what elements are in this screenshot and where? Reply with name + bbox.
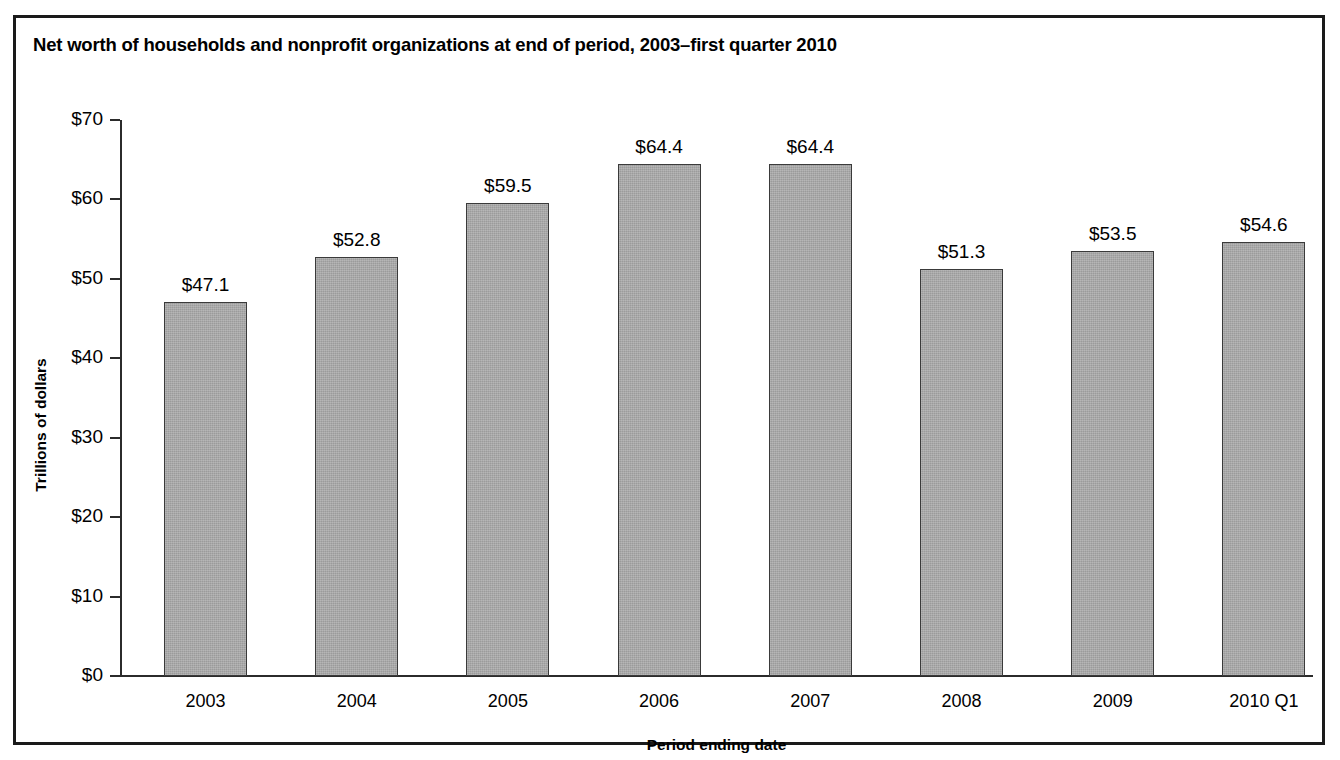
- bar: [315, 257, 398, 676]
- y-axis-tick: $0: [110, 675, 120, 677]
- y-axis-tick: $40: [110, 357, 120, 359]
- y-axis-tick: $20: [110, 516, 120, 518]
- y-axis-tick: $10: [110, 596, 120, 598]
- y-axis-tick-label: $0: [82, 664, 103, 686]
- bar: [618, 164, 701, 676]
- plot-area: $0$10$20$30$40$50$60$70 $47.12003$52.820…: [120, 120, 1313, 676]
- y-axis-tick-label: $40: [71, 346, 103, 368]
- bar-group: $51.32008: [920, 120, 1003, 676]
- bar-value-label: $64.4: [596, 136, 723, 158]
- x-axis-category-label: 2007: [739, 691, 882, 712]
- y-axis-tick-label: $20: [71, 505, 103, 527]
- chart-title: Net worth of households and nonprofit or…: [33, 34, 837, 56]
- x-axis-category-label: 2003: [134, 691, 277, 712]
- bar: [920, 269, 1003, 676]
- x-axis-category-label: 2004: [285, 691, 428, 712]
- y-axis-tick: $50: [110, 278, 120, 280]
- y-axis-line: [120, 120, 122, 676]
- bar: [1222, 242, 1305, 676]
- x-axis-category-label: 2005: [436, 691, 579, 712]
- y-axis-tick-label: $50: [71, 267, 103, 289]
- bar-value-label: $51.3: [898, 241, 1025, 263]
- x-axis-title: Period ending date: [120, 736, 1313, 754]
- bar-group: $54.62010 Q1: [1222, 120, 1305, 676]
- bar-value-label: $54.6: [1200, 214, 1327, 236]
- y-axis-tick-label: $10: [71, 585, 103, 607]
- chart-figure-frame: Net worth of households and nonprofit or…: [13, 15, 1325, 745]
- x-axis-category-label: 2008: [890, 691, 1033, 712]
- bar-value-label: $59.5: [444, 175, 571, 197]
- bar: [769, 164, 852, 676]
- bar-group: $47.12003: [164, 120, 247, 676]
- bar-group: $53.52009: [1071, 120, 1154, 676]
- y-axis-tick: $30: [110, 437, 120, 439]
- bar: [1071, 251, 1154, 676]
- bar-group: $64.42007: [769, 120, 852, 676]
- y-axis-tick-label: $60: [71, 187, 103, 209]
- y-axis-tick: $60: [110, 198, 120, 200]
- x-axis-category-label: 2009: [1041, 691, 1184, 712]
- y-axis-tick-label: $70: [71, 108, 103, 130]
- bar-group: $59.52005: [466, 120, 549, 676]
- bar-value-label: $47.1: [142, 274, 269, 296]
- bar: [466, 203, 549, 676]
- bar-value-label: $52.8: [293, 229, 420, 251]
- y-axis-tick: $70: [110, 119, 120, 121]
- x-axis-category-label: 2010 Q1: [1192, 691, 1335, 712]
- bar-group: $64.42006: [618, 120, 701, 676]
- bar-value-label: $64.4: [747, 136, 874, 158]
- bar: [164, 302, 247, 676]
- y-axis-title: Trillions of dollars: [32, 95, 50, 315]
- x-axis-category-label: 2006: [588, 691, 731, 712]
- bar-group: $52.82004: [315, 120, 398, 676]
- y-axis-tick-label: $30: [71, 426, 103, 448]
- y-axis-title-label: Trillions of dollars: [32, 315, 50, 535]
- bar-value-label: $53.5: [1049, 223, 1176, 245]
